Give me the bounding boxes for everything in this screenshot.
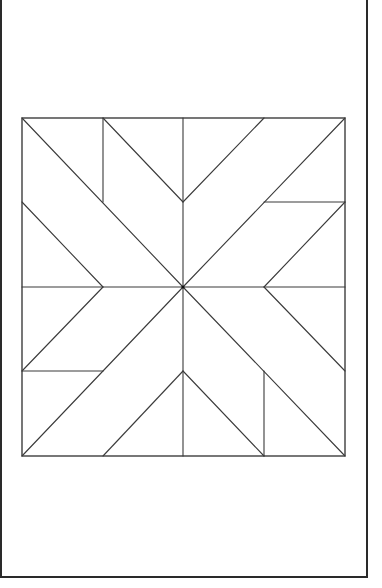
center-point [181,285,184,288]
quilt-block [22,118,345,456]
quilt-diagram-canvas [0,0,382,588]
